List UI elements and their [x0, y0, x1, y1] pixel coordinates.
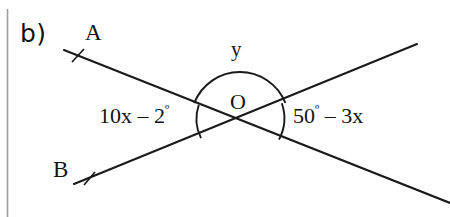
- angle-label-left: 10x – 2º: [99, 105, 169, 127]
- angle-left-operator: –: [138, 103, 149, 128]
- figure-canvas: [0, 0, 450, 217]
- vertex-label-o: O: [230, 91, 246, 113]
- angle-arc-right: [279, 103, 284, 139]
- angle-right-operator: –: [325, 103, 336, 128]
- angle-label-right: 50º – 3x: [293, 105, 363, 127]
- angle-left-term: 10x: [99, 103, 132, 128]
- angle-right-constant: 50: [293, 103, 315, 128]
- angle-right-term: 3x: [341, 103, 363, 128]
- part-label: b): [20, 21, 47, 46]
- geometry-figure-panel: b) A B O y 10x – 2º 50º – 3x: [0, 0, 450, 217]
- tick-mark-a-icon: [72, 49, 84, 62]
- point-label-b: B: [53, 158, 68, 181]
- point-label-a: A: [85, 21, 102, 44]
- angle-left-constant: 2: [154, 103, 165, 128]
- angle-label-y: y: [231, 39, 242, 60]
- degree-symbol-left: º: [165, 103, 169, 118]
